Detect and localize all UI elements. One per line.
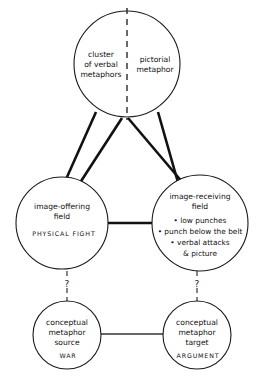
- conceptual-target-line-1: conceptual: [176, 318, 218, 327]
- mapping-line-outer-right: [158, 112, 179, 186]
- conceptual-source-line-3: source: [54, 338, 80, 347]
- conceptual-target-line-2: metaphor: [178, 328, 216, 337]
- diagram-canvas: ? ? cluster of verbal metaphors pictoria…: [0, 0, 258, 391]
- cluster-right-line-1: pictorial: [140, 55, 171, 64]
- image-receiving-field-node[interactable]: image-receiving field • low punches • pu…: [152, 175, 248, 271]
- conceptual-source-caps-label: WAR: [59, 352, 76, 359]
- right-question-mark: ?: [195, 279, 200, 289]
- image-offering-field-node[interactable]: image-offering field PHYSICAL FIGHT: [16, 177, 108, 269]
- mapping-line-outer-left: [63, 112, 96, 186]
- image-receiving-bullet-1: • low punches: [174, 216, 227, 225]
- conceptual-target-caps-label: ARGUMENT: [177, 352, 220, 359]
- image-receiving-line-1: image-receiving: [169, 192, 230, 201]
- cluster-left-line-3: metaphors: [80, 70, 121, 79]
- image-offering-circle: [16, 177, 108, 269]
- image-offering-line-2: field: [54, 212, 71, 221]
- cluster-node[interactable]: cluster of verbal metaphors pictorial me…: [74, 8, 180, 120]
- conceptual-target-line-3: target: [185, 338, 208, 347]
- image-receiving-bullet-2: • punch below the belt: [158, 227, 243, 236]
- image-offering-caps-label: PHYSICAL FIGHT: [32, 230, 95, 237]
- left-vertical-connector-group: ?: [65, 271, 70, 302]
- right-vertical-connector-group: ?: [195, 271, 200, 302]
- metaphor-diagram: ? ? cluster of verbal metaphors pictoria…: [0, 0, 258, 391]
- cluster-left-line-2: of verbal: [84, 60, 118, 69]
- conceptual-source-line-1: conceptual: [46, 318, 88, 327]
- conceptual-metaphor-source-node[interactable]: conceptual metaphor source WAR: [33, 301, 101, 369]
- image-receiving-bullet-4: & picture: [183, 249, 217, 258]
- image-receiving-bullet-3: • verbal attacks: [170, 238, 229, 247]
- cluster-right-line-2: metaphor: [136, 65, 174, 74]
- cluster-left-line-1: cluster: [88, 50, 115, 59]
- conceptual-metaphor-target-node[interactable]: conceptual metaphor target ARGUMENT: [163, 301, 231, 369]
- mapping-lines-group: [63, 112, 189, 192]
- conceptual-source-line-2: metaphor: [48, 328, 86, 337]
- left-question-mark: ?: [65, 279, 70, 289]
- image-offering-line-1: image-offering: [34, 202, 90, 211]
- image-receiving-line-2: field: [192, 202, 209, 211]
